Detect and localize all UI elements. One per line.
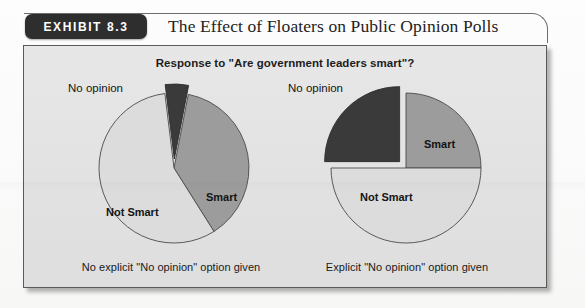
exhibit-header: EXHIBIT 8.3 The Effect of Floaters on Pu… xyxy=(0,0,585,47)
slice-no-opinion xyxy=(325,87,400,162)
pie-right-label-not-smart: Not Smart xyxy=(360,191,413,203)
exhibit-page: EXHIBIT 8.3 The Effect of Floaters on Pu… xyxy=(0,0,585,308)
chart-subtitle: Response to "Are government leaders smar… xyxy=(24,57,546,69)
pie-right-svg: SmartNot SmartNo opinion xyxy=(282,76,532,261)
pie-left-caption: No explicit "No opinion" option given xyxy=(46,261,296,273)
pie-right-slices xyxy=(325,87,481,243)
slice-not-smart xyxy=(331,168,481,243)
pie-left-slices xyxy=(99,84,249,243)
pie-left-label-no-opinion: No opinion xyxy=(68,82,123,94)
pie-chart-left: SmartNot SmartNo opinion No explicit "No… xyxy=(46,76,296,281)
pie-left-label-smart: Smart xyxy=(206,191,238,203)
pie-right-caption: Explicit "No opinion" option given xyxy=(282,261,532,273)
exhibit-badge: EXHIBIT 8.3 xyxy=(25,14,147,39)
pie-chart-right: SmartNot SmartNo opinion Explicit "No op… xyxy=(282,76,532,281)
pie-right-label-no-opinion: No opinion xyxy=(288,82,343,94)
exhibit-title: The Effect of Floaters on Public Opinion… xyxy=(168,16,498,37)
slice-smart xyxy=(406,93,481,168)
pie-left-label-not-smart: Not Smart xyxy=(106,206,159,218)
pie-right-label-smart: Smart xyxy=(424,138,456,150)
chart-panel: Response to "Are government leaders smar… xyxy=(23,45,547,288)
exhibit-badge-label: EXHIBIT 8.3 xyxy=(44,20,129,34)
pie-left-svg: SmartNot SmartNo opinion xyxy=(46,76,296,261)
